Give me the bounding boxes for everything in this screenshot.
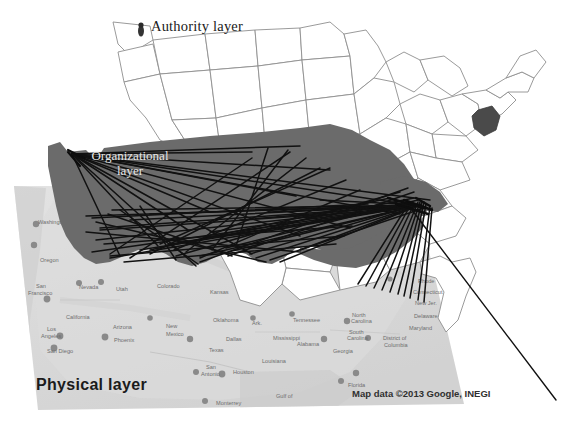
organizational-layer-graphic [0, 0, 565, 424]
organizational-layer [0, 0, 565, 424]
figure-canvas: WashingtonOregonNevadaCaliforniaUtahColo… [0, 0, 565, 424]
external-edge [412, 210, 556, 400]
